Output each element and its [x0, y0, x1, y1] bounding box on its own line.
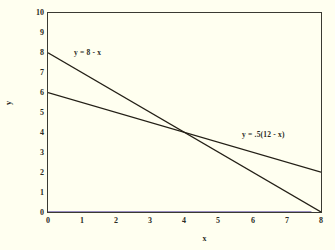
- x-tick-label: 6: [243, 217, 263, 225]
- y-tick-label: 8: [20, 49, 44, 57]
- x-tick-label: 5: [208, 217, 228, 225]
- y-tick-label: 9: [20, 29, 44, 37]
- x-tick-label: 2: [106, 217, 126, 225]
- y-tick-label: 7: [20, 69, 44, 77]
- x-axis-title-text: x: [203, 234, 207, 243]
- x-tick-label: 7: [277, 217, 297, 225]
- x-axis-title: x: [0, 234, 335, 243]
- y-axis-title: y: [4, 101, 13, 105]
- series-annotation-eight-minus-x: y = 8 - x: [74, 48, 101, 57]
- y-tick-label: 3: [20, 149, 44, 157]
- x-tick-label: 4: [174, 217, 194, 225]
- y-tick-label: 6: [20, 89, 44, 97]
- x-tick-label: 1: [72, 217, 92, 225]
- y-tick-label: 5: [20, 109, 44, 117]
- chart-figure: 10 9 8 7 6 5 4 3 2 1 0 y = 8 - x y = .5(…: [0, 0, 335, 250]
- y-tick-label: 2: [20, 169, 44, 177]
- x-tick-label: 8: [311, 217, 331, 225]
- y-tick-label: 0: [20, 209, 44, 217]
- x-tick-label: 0: [38, 217, 58, 225]
- x-tick-label: 3: [140, 217, 160, 225]
- series-annotation-half-twelve-minus-x: y = .5(12 - x): [242, 130, 285, 139]
- y-tick-label: 4: [20, 129, 44, 137]
- plot-area: [47, 12, 322, 213]
- y-tick-label: 1: [20, 189, 44, 197]
- plot-lines: [48, 13, 321, 212]
- y-tick-label: 10: [20, 9, 44, 17]
